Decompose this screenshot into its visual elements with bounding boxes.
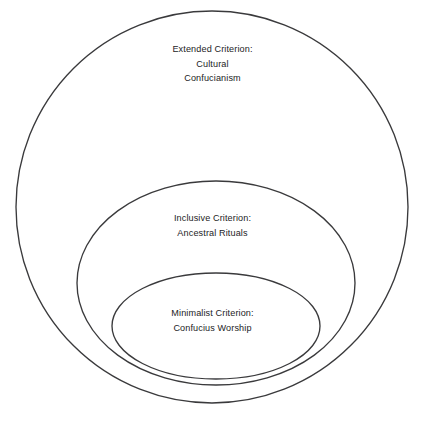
middle-label-line-2: Ancestral Rituals xyxy=(0,226,425,241)
outer-label-line-2: Cultural xyxy=(0,57,425,72)
middle-circle-label: Inclusive Criterion: Ancestral Rituals xyxy=(0,211,425,240)
nested-criteria-diagram: Extended Criterion: Cultural Confucianis… xyxy=(0,0,425,426)
middle-label-line-1: Inclusive Criterion: xyxy=(0,211,425,226)
inner-label-line-2: Confucius Worship xyxy=(0,321,425,336)
inner-ellipse-label: Minimalist Criterion: Confucius Worship xyxy=(0,306,425,335)
inner-label-line-1: Minimalist Criterion: xyxy=(0,306,425,321)
outer-circle-label: Extended Criterion: Cultural Confucianis… xyxy=(0,42,425,86)
outer-label-line-1: Extended Criterion: xyxy=(0,42,425,57)
outer-label-line-3: Confucianism xyxy=(0,71,425,86)
